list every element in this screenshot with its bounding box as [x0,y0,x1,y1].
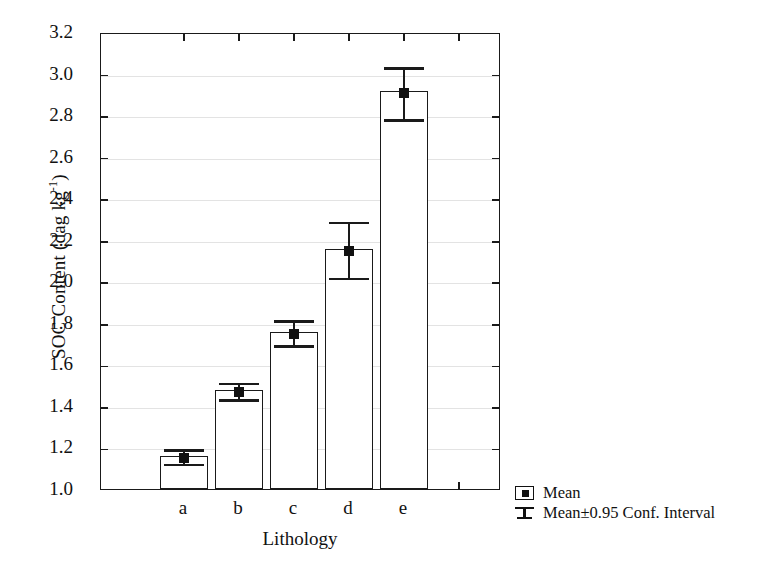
x-axis-title: Lithology [100,528,500,550]
gridline [101,76,499,77]
y-axis-tick-label: 1.4 [13,396,73,415]
gridline [101,283,499,284]
error-bar-cap-e-lower [384,119,424,122]
axis-tick [492,324,499,326]
error-bar-cap-e-upper [384,67,424,70]
plot-area [100,33,500,490]
y-axis-title-tail: ) [48,174,69,181]
axis-tick [492,241,499,243]
bar-d [325,249,373,489]
error-bar-cap-b-lower [219,399,259,402]
axis-tick [458,482,460,489]
y-axis-tick-label: 2.6 [13,147,73,166]
axis-tick [101,199,108,201]
axis-tick [101,449,108,451]
axis-tick [101,158,108,160]
y-axis-tick-label: 3.2 [13,22,73,41]
error-bar-cap-c-upper [274,320,314,323]
x-axis-tick-label-b: b [208,497,268,519]
bar-e [380,91,428,489]
x-axis-tick-label-c: c [263,497,323,519]
axis-tick [492,116,499,118]
x-axis-tick-label-e: e [373,497,433,519]
axis-tick [348,34,350,41]
y-axis-tick-label: 2.0 [13,271,73,290]
axis-tick [492,75,499,77]
axis-tick [458,34,460,41]
gridline [101,117,499,118]
x-axis-tick-label-d: d [318,497,378,519]
y-axis-tick-label: 2.2 [13,230,73,249]
gridline [101,242,499,243]
y-axis-tick-label: 1.8 [13,313,73,332]
legend-item-mean: Mean [513,483,715,503]
error-bar-cap-a-lower [164,464,204,467]
axis-tick [183,34,185,41]
y-axis-tick-label: 1.2 [13,437,73,456]
bar-b [215,390,263,489]
mean-square-icon [513,483,537,503]
axis-tick [101,282,108,284]
axis-tick [492,366,499,368]
axis-tick [101,241,108,243]
axis-tick [403,34,405,41]
axis-tick [238,34,240,41]
error-bar-cap-d-upper [329,222,369,225]
axis-tick [492,282,499,284]
error-bar-icon [513,503,537,523]
axis-tick [101,75,108,77]
axis-tick [101,366,108,368]
error-bar-cap-b-upper [219,383,259,386]
axis-tick [293,34,295,41]
y-axis-tick-label: 3.0 [13,64,73,83]
axis-tick [101,116,108,118]
gridline [101,200,499,201]
axis-tick [101,324,108,326]
y-axis-tick-label: 1.0 [13,479,73,498]
gridline [101,159,499,160]
axis-tick [101,407,108,409]
bar-c [270,332,318,489]
y-axis-tick-label: 1.6 [13,354,73,373]
mean-marker-e [399,88,409,98]
chart-legend: Mean Mean±0.95 Conf. Interval [513,483,715,523]
axis-tick [492,407,499,409]
error-bar-cap-d-lower [329,278,369,281]
x-axis-tick-label-a: a [153,497,213,519]
legend-label-mean: Mean [543,483,581,503]
gridline [101,325,499,326]
mean-marker-c [289,329,299,339]
legend-label-confidence-interval: Mean±0.95 Conf. Interval [543,503,715,523]
legend-item-confidence-interval: Mean±0.95 Conf. Interval [513,503,715,523]
mean-marker-a [179,453,189,463]
axis-tick [492,449,499,451]
soc-content-bar-chart: SOC Content (dag kg-1) Lithology 3.23.02… [0,0,779,574]
axis-tick [492,158,499,160]
error-bar-cap-c-lower [274,345,314,348]
error-bar-cap-a-upper [164,449,204,452]
mean-marker-b [234,387,244,397]
y-axis-tick-label: 2.4 [13,188,73,207]
mean-marker-d [344,246,354,256]
y-axis-tick-label: 2.8 [13,105,73,124]
axis-tick [492,199,499,201]
